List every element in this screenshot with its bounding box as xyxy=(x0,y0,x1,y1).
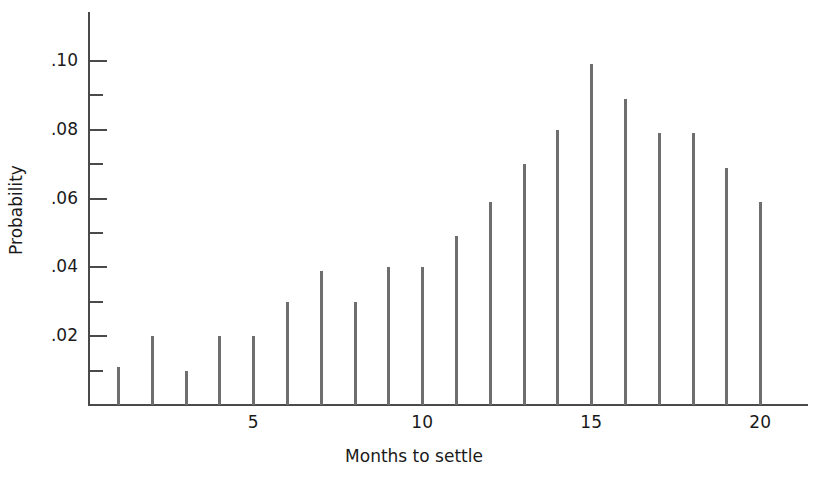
bar xyxy=(151,336,154,405)
y-axis-label: Probability xyxy=(6,100,26,320)
chart-figure: .02.04.06.08.10 5101520 Probability Mont… xyxy=(0,0,828,477)
y-axis-tick-major xyxy=(90,335,107,337)
y-axis-tick-minor xyxy=(90,370,103,372)
y-axis-tick-minor xyxy=(90,232,103,234)
y-axis-tick-major xyxy=(90,266,107,268)
bar xyxy=(218,336,221,405)
bar xyxy=(185,371,188,405)
y-axis-tick-major xyxy=(90,129,107,131)
y-axis-tick-minor xyxy=(90,301,103,303)
y-axis-tick-major xyxy=(90,60,107,62)
bar xyxy=(286,302,289,405)
bar xyxy=(320,271,323,405)
y-axis-label-wrap: Probability xyxy=(0,0,30,420)
bar xyxy=(725,168,728,405)
bar xyxy=(421,267,424,405)
bar xyxy=(692,133,695,405)
x-axis-tick-label: 15 xyxy=(561,414,621,431)
bar xyxy=(523,164,526,405)
x-axis-tick-label: 5 xyxy=(223,414,283,431)
bar xyxy=(556,130,559,405)
bar xyxy=(117,367,120,405)
y-axis-tick-minor xyxy=(90,163,103,165)
x-axis-line xyxy=(88,404,808,406)
bar xyxy=(624,99,627,405)
plot-area: .02.04.06.08.10 5101520 Probability Mont… xyxy=(0,0,828,477)
bar xyxy=(354,302,357,405)
bar xyxy=(658,133,661,405)
x-axis-label: Months to settle xyxy=(0,446,828,466)
x-axis-tick-label: 20 xyxy=(730,414,790,431)
bar xyxy=(759,202,762,405)
y-axis-tick-minor xyxy=(90,94,103,96)
bar xyxy=(590,64,593,405)
bar xyxy=(455,236,458,405)
y-axis-tick-major xyxy=(90,198,107,200)
bar xyxy=(252,336,255,405)
bar xyxy=(387,267,390,405)
x-axis-tick-label: 10 xyxy=(392,414,452,431)
bar xyxy=(489,202,492,405)
y-axis-line xyxy=(88,12,90,406)
